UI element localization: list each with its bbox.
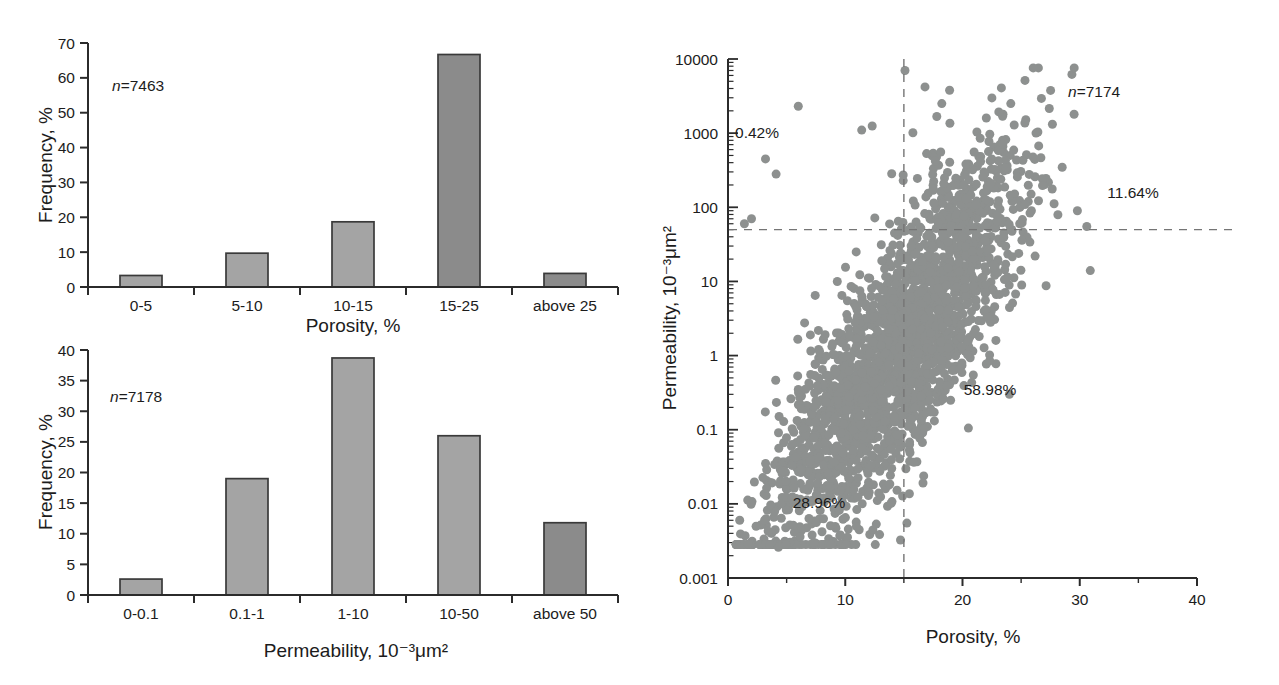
data-point [851, 318, 860, 327]
data-point [980, 262, 989, 271]
data-point [866, 461, 875, 470]
data-point [926, 277, 935, 286]
data-point [852, 522, 861, 531]
category-label: above 50 [533, 605, 597, 622]
y-tick-label: 0.01 [688, 495, 718, 512]
data-point [917, 392, 926, 401]
data-point [971, 200, 980, 209]
bar-above 25 [544, 273, 586, 287]
category-label: 5-10 [231, 297, 262, 314]
data-point [969, 371, 978, 380]
data-point [996, 175, 1005, 184]
bar-5-10 [226, 253, 268, 287]
data-point [876, 341, 885, 350]
y-tick-label: 50 [58, 104, 76, 121]
data-point [1042, 281, 1051, 290]
data-point [906, 293, 915, 302]
bar-above 50 [544, 523, 586, 595]
porosity-permeability-scatter: 0.0010.010.1110100100010000010203040 [650, 0, 1279, 685]
category-label: 0-5 [130, 297, 152, 314]
data-point [932, 112, 941, 121]
data-point [916, 224, 925, 233]
data-point [985, 130, 994, 139]
data-point [808, 531, 817, 540]
data-point [887, 445, 896, 454]
y-tick-label: 0.1 [696, 421, 718, 438]
data-point [870, 213, 879, 222]
data-point [838, 449, 847, 458]
data-point [1038, 181, 1047, 190]
data-point [909, 458, 918, 467]
data-point [782, 433, 791, 442]
data-point [898, 285, 907, 294]
data-point [890, 412, 899, 421]
quadrant-label-bottom-right: 58.98% [964, 381, 1017, 399]
data-point [841, 540, 850, 549]
data-point [952, 283, 961, 292]
category-label: above 25 [533, 297, 597, 314]
data-point-outlier [945, 86, 954, 95]
data-point [1048, 120, 1057, 129]
data-point [819, 514, 828, 523]
quadrant-label-top-left: 0.42% [735, 124, 779, 142]
y-tick-label: 5 [66, 556, 75, 573]
category-label: 10-50 [439, 605, 479, 622]
y-tick-label: 100 [692, 199, 718, 216]
data-point [900, 345, 909, 354]
bar-15-25 [438, 55, 480, 287]
data-point [1001, 260, 1010, 269]
quadrant-label-bottom-left: 28.96% [793, 494, 846, 512]
data-point [1027, 190, 1036, 199]
category-label: 15-25 [439, 297, 479, 314]
permeability-histogram: 05101520253035400-0.10.1-11-1010-50above… [0, 340, 650, 685]
data-point [942, 381, 951, 390]
data-point [839, 420, 848, 429]
data-point [919, 479, 928, 488]
data-point [1020, 119, 1029, 128]
data-point [917, 288, 926, 297]
data-point-outlier [752, 522, 761, 531]
data-point [1053, 210, 1062, 219]
y-tick-label: 1000 [684, 125, 719, 142]
data-point [761, 407, 770, 416]
data-point [981, 288, 990, 297]
data-point [857, 368, 866, 377]
y-tick-label: 70 [58, 35, 76, 52]
data-point [867, 451, 876, 460]
data-point [994, 156, 1003, 165]
data-point-outlier [735, 516, 744, 525]
data-point [858, 443, 867, 452]
data-point [1015, 219, 1024, 228]
data-point [844, 367, 853, 376]
data-point [898, 300, 907, 309]
data-point [878, 306, 887, 315]
data-point [821, 446, 830, 455]
data-point [929, 184, 938, 193]
data-point [944, 344, 953, 353]
data-point [978, 173, 987, 182]
data-point [870, 379, 879, 388]
y-tick-label: 10 [701, 273, 719, 290]
data-point [838, 338, 847, 347]
data-point [1029, 63, 1038, 72]
data-point [998, 140, 1007, 149]
y-tick-label: 40 [58, 139, 76, 156]
data-point [872, 520, 881, 529]
data-point [758, 473, 767, 482]
data-point [952, 210, 961, 219]
data-point [911, 201, 920, 210]
data-point [1012, 156, 1021, 165]
data-point [837, 462, 846, 471]
data-point [905, 438, 914, 447]
y-tick-label: 20 [58, 464, 76, 481]
data-point [771, 376, 780, 385]
data-point [927, 345, 936, 354]
data-point [881, 272, 890, 281]
data-point [793, 416, 802, 425]
top-histogram-sample-count: n=7463 [112, 77, 164, 95]
data-point [809, 434, 818, 443]
data-point [826, 521, 835, 530]
data-point [937, 99, 946, 108]
data-point [938, 199, 947, 208]
data-point [885, 219, 894, 228]
